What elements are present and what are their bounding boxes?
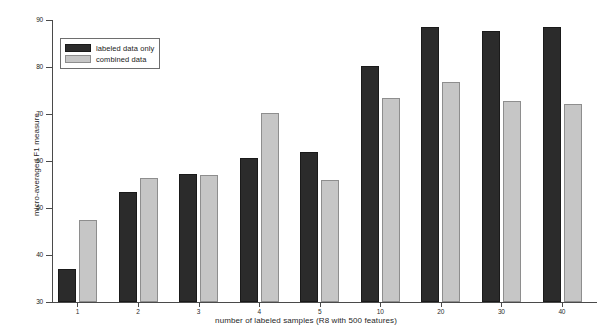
x-axis-line (52, 302, 597, 303)
bar-combined-data-2 (140, 178, 158, 302)
legend-swatch-icon-dark (65, 44, 91, 52)
y-tick-label-text: 90 (36, 16, 43, 23)
x-axis-title: number of labeled samples (R8 with 500 f… (0, 316, 612, 325)
bar-labeled-data-only-3 (179, 174, 197, 302)
x-tick-label: 20 (437, 308, 444, 315)
x-tick-mark (441, 302, 442, 307)
x-tick-label: 4 (257, 308, 260, 315)
x-tick-label: 5 (318, 308, 321, 315)
x-tick-label: 1 (76, 308, 79, 315)
x-tick-mark (138, 302, 139, 307)
y-tick-label-text: 30 (36, 298, 43, 305)
bar-labeled-data-only-20 (421, 27, 439, 302)
bar-combined-data-5 (321, 180, 339, 302)
x-tick-mark (77, 302, 78, 307)
x-tick-label: 3 (197, 308, 200, 315)
bar-labeled-data-only-40 (543, 27, 561, 302)
y-axis-title: micro-averaged F1 measure (32, 55, 41, 275)
x-tick-label: 40 (558, 308, 565, 315)
y-tick-mark (46, 302, 52, 303)
bar-combined-data-40 (564, 104, 582, 302)
bar-combined-data-4 (261, 113, 279, 302)
x-tick-mark (259, 302, 260, 307)
x-tick-mark (562, 302, 563, 307)
legend-label-dark: labeled data only (96, 44, 154, 53)
legend-item-combined-data: combined data (65, 54, 154, 64)
legend-item-labeled-data-only: labeled data only (65, 43, 154, 53)
chart-legend: labeled data only combined data (60, 38, 160, 69)
bar-labeled-data-only-1 (58, 269, 76, 302)
bar-labeled-data-only-5 (300, 152, 318, 302)
x-tick-mark (320, 302, 321, 307)
x-tick-mark (380, 302, 381, 307)
x-tick-label: 10 (377, 308, 384, 315)
x-tick-mark (501, 302, 502, 307)
bar-combined-data-1 (79, 220, 97, 302)
bar-labeled-data-only-2 (119, 192, 137, 302)
bar-labeled-data-only-30 (482, 31, 500, 302)
legend-label-light: combined data (96, 55, 147, 64)
bar-labeled-data-only-10 (361, 66, 379, 302)
bar-combined-data-3 (200, 175, 218, 302)
chart-figure: 30405060708090 1234510203040 micro-avera… (0, 0, 612, 329)
legend-swatch-icon-light (65, 55, 91, 63)
x-tick-mark (199, 302, 200, 307)
x-tick-label: 30 (498, 308, 505, 315)
bar-combined-data-20 (442, 82, 460, 302)
bar-combined-data-10 (382, 98, 400, 302)
x-tick-label: 2 (136, 308, 139, 315)
bar-combined-data-30 (503, 101, 521, 302)
bar-labeled-data-only-4 (240, 158, 258, 302)
